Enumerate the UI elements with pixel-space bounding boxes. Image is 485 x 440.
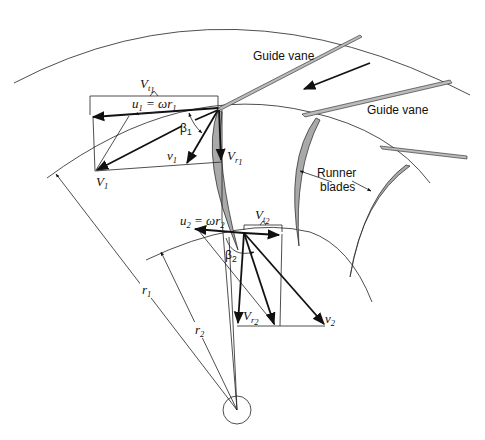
beta2-label: β2 [225, 248, 237, 264]
guide-vane-1 [218, 35, 362, 110]
guide-vane-label-top: Guide vane [253, 49, 315, 63]
v2-label: v2 [325, 311, 336, 328]
guide-vane-label-right: Guide vane [367, 103, 429, 117]
runner-blades-label-2: blades [320, 180, 355, 194]
runner-blades-label-1: Runner [317, 166, 356, 180]
outer-casing-arc [14, 29, 470, 95]
runner-blade-1 [212, 110, 238, 250]
v1-label: v1 [167, 148, 177, 165]
vr1-label: Vr1 [227, 148, 243, 167]
runner-blade-3 [350, 165, 410, 277]
vt1-label: Vt1 [140, 76, 155, 95]
outlet-velocity-triangle [195, 221, 325, 326]
runner-blade-2 [295, 118, 320, 246]
u2-label: u2 = ωr2 [180, 213, 225, 230]
turbine-velocity-diagram: Guide vane Guide vane Runner blades Vt1 … [0, 0, 485, 440]
vr2-label: Vr2 [243, 308, 259, 327]
guide-vane-3 [380, 146, 467, 159]
vt2-label: Vt2 [255, 207, 270, 226]
flow-direction-arrow [304, 63, 370, 89]
u1-label: u1 = ωr1 [132, 96, 177, 113]
beta1-label: β1 [180, 121, 192, 137]
V1-label: V1 [96, 174, 108, 191]
